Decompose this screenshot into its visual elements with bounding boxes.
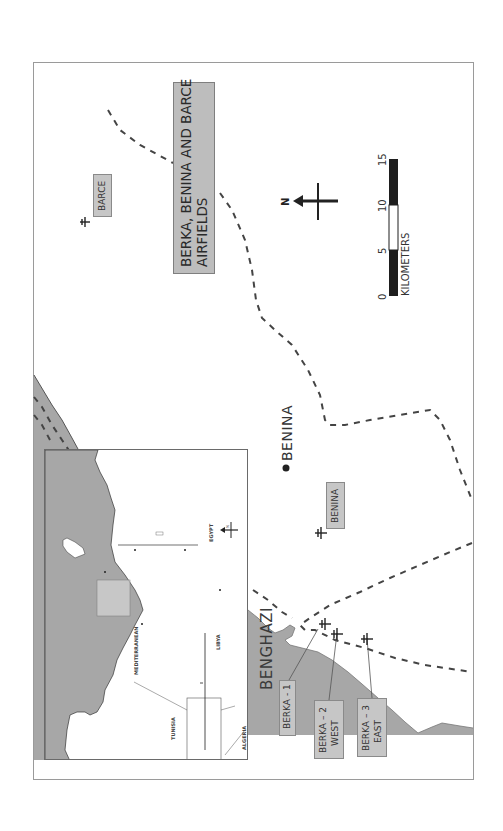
map-title-line1: BERKA, BENINA AND BARCE: [178, 79, 194, 267]
airfield-label-barce: BARCE: [93, 174, 112, 217]
north-arrow-icon: [293, 183, 338, 220]
town-label-benina: BENINA: [279, 405, 295, 461]
airfield-label-berka-3: BERKA – 3 EAST: [357, 698, 387, 757]
airfield-label-berka-2: BERKA – 2 WEST: [314, 700, 344, 759]
city-label-benghazi: BENGHAZI: [258, 607, 276, 690]
map-title-line2: AIRFIELDS: [194, 198, 210, 267]
inset-map-artwork: [45, 450, 248, 760]
inset-north-label: N: [225, 525, 230, 528]
scale-tick-0: 0: [377, 294, 388, 300]
scale-tick-10: 10: [377, 199, 388, 212]
airfield-label-benina: BENINA: [326, 482, 345, 529]
scale-unit-label: KILOMETERS: [400, 233, 411, 296]
inset-label-algeria: ALGERIA: [241, 726, 247, 750]
airfield-label-berka-1: BERKA - 1: [279, 680, 296, 736]
inset-label-egypt: EGYPT: [208, 524, 214, 542]
map-title-box: BERKA, BENINA AND BARCE AIRFIELDS: [173, 82, 215, 274]
airplane-icon-barce: [80, 217, 90, 227]
airplane-icon-berka-1: [319, 618, 331, 630]
north-label: N: [280, 198, 291, 206]
benina-town-dot: [283, 465, 290, 472]
scale-tick-15: 15: [377, 153, 388, 166]
airplane-icon-berka-2: [331, 628, 343, 640]
inset-label-tunisia: TUNISIA: [170, 717, 176, 740]
inset-locator-map: MEDITERRANEAN LIBYA EGYPT TUNISIA ALGERI…: [44, 449, 248, 760]
scale-tick-5: 5: [377, 248, 388, 254]
inset-label-mediterranean: MEDITERRANEAN: [133, 627, 139, 675]
inset-label-libya: LIBYA: [215, 634, 221, 650]
airplane-icon-berka-3: [361, 633, 373, 645]
scale-bar: [389, 159, 398, 296]
